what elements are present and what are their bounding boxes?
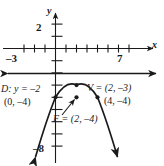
directrix-label: D: y = –2 [1,84,40,94]
focus-point [74,95,78,99]
focus-label: F = (2, –4) [53,114,98,124]
x-tick-label-7: 7 [117,53,123,64]
y-axis-ticks [52,24,63,146]
y-tick-label-2: 2 [36,22,42,33]
x-axis-label: x [152,40,157,50]
vertex-label: V = (2, –3) [87,83,131,93]
x-tick-label-neg3: –3 [6,53,17,64]
y-tick-label-neg8: –8 [33,143,44,154]
vertex-point [74,83,78,87]
point-0-neg4 [53,95,57,99]
y-axis-label: y [47,6,51,16]
point-label-4-neg4: (4, –4) [104,96,131,106]
point-4-neg4 [95,95,99,99]
parabola-graph-figure: x y –3 7 2 –8 D: y = –2 (0, –4) V = (2, … [0,0,164,166]
point-label-0-neg4: (0, –4) [4,97,31,107]
